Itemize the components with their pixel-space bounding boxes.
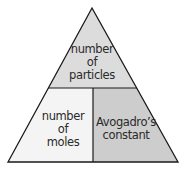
bottom-left-label-line-3: moles — [38, 136, 88, 149]
bottom-left-label: number of moles — [38, 110, 88, 149]
bottom-right-label-line-2: constant — [94, 129, 158, 142]
triangle-diagram — [0, 0, 191, 169]
top-label-line-3: particles — [62, 69, 122, 82]
top-label: number of particles — [62, 43, 122, 82]
bottom-right-label: Avogadro’s constant — [94, 116, 158, 142]
